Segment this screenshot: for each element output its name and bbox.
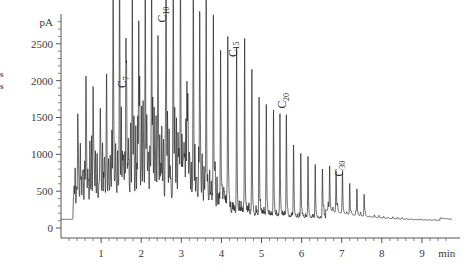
peak-label-text: C10 bbox=[156, 7, 171, 23]
x-tick-label: 6 bbox=[299, 247, 305, 259]
y-tick-label: 0 bbox=[48, 222, 54, 234]
y-tick-label: 500 bbox=[37, 185, 54, 197]
y-axis-unit-label: pA bbox=[40, 16, 54, 28]
y-tick-label: 2000 bbox=[31, 75, 54, 87]
y-tick-label: 2500 bbox=[31, 38, 54, 50]
x-tick-label: 4 bbox=[219, 247, 225, 259]
margin-text-fragment-2: s bbox=[0, 81, 4, 91]
chromatogram-plot: 05001000150020002500 pA 123456789 min C7… bbox=[0, 0, 468, 277]
x-axis-unit-label: min bbox=[438, 247, 456, 259]
x-tick-label: 5 bbox=[259, 247, 265, 259]
peak-label-c7: C7 bbox=[116, 76, 131, 88]
y-axis-major-ticks bbox=[56, 44, 61, 228]
x-axis: 123456789 min bbox=[61, 238, 460, 259]
peak-label-text: C7 bbox=[116, 76, 131, 88]
peak-label-c15: C15 bbox=[227, 41, 242, 57]
peak-label-c20: C20 bbox=[276, 93, 291, 109]
chromatogram-trace bbox=[61, 0, 452, 220]
x-tick-label: 1 bbox=[98, 247, 104, 259]
x-axis-tick-labels: 123456789 bbox=[98, 247, 425, 259]
y-tick-label: 1000 bbox=[31, 148, 54, 160]
peak-label-c10: C10 bbox=[156, 7, 171, 23]
margin-text-fragment-1: s bbox=[0, 69, 4, 79]
peak-label-text: C15 bbox=[227, 41, 242, 57]
x-tick-label: 8 bbox=[379, 247, 385, 259]
x-tick-label: 9 bbox=[419, 247, 425, 259]
y-axis: 05001000150020002500 pA bbox=[31, 14, 61, 238]
x-tick-label: 3 bbox=[179, 247, 185, 259]
peak-label-text: C30 bbox=[333, 161, 348, 177]
peak-label-c30: C30 bbox=[333, 161, 348, 177]
x-tick-label: 2 bbox=[138, 247, 144, 259]
x-tick-label: 7 bbox=[339, 247, 345, 259]
chromatogram-figure: s s 05001000150020002500 pA 123456789 mi… bbox=[0, 0, 468, 277]
y-tick-label: 1500 bbox=[31, 111, 54, 123]
peak-label-text: C20 bbox=[276, 93, 291, 109]
y-axis-tick-labels: 05001000150020002500 bbox=[31, 38, 54, 234]
